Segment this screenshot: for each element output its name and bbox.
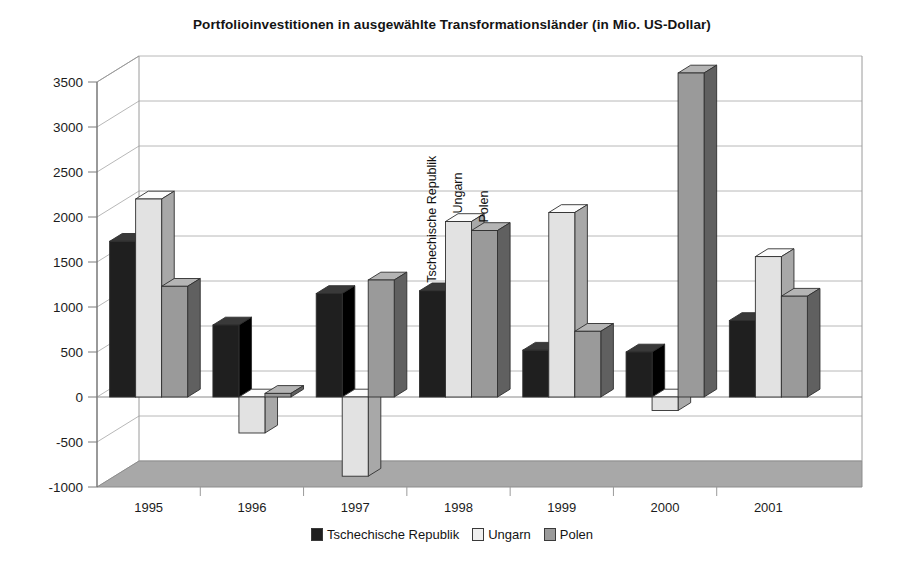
bar-tschechische-republik-1996 (213, 317, 252, 397)
y-tick-label: 1000 (53, 300, 83, 315)
bar-polen-1997 (368, 272, 407, 397)
y-tick-label: 3500 (53, 75, 83, 90)
y-tick-label: -1000 (48, 480, 83, 495)
x-tick-label: 2001 (754, 500, 783, 515)
bar-polen-1996 (265, 386, 304, 397)
chart-container: Portfolioinvestitionen in ausgewählte Tr… (0, 0, 904, 571)
legend-label: Tschechische Republik (327, 528, 459, 541)
chart-plot-area: 3500300025002000150010005000-500-1000 19… (0, 0, 904, 571)
x-axis-ticks: 1995199619971998199920002001 (134, 487, 783, 515)
bar-ungarn-1997 (342, 389, 381, 476)
x-tick-label: 1995 (134, 500, 163, 515)
y-tick-label: 2000 (53, 210, 83, 225)
x-tick-label: 1999 (547, 500, 576, 515)
chart-legend: Tschechische RepublikUngarnPolen (0, 528, 904, 541)
legend-swatch-icon (544, 528, 556, 541)
series-annotation-polen: Polen (477, 190, 491, 222)
y-axis-ticks: 3500300025002000150010005000-500-1000 (48, 75, 97, 495)
legend-item-tschechische-republik[interactable]: Tschechische Republik (311, 528, 459, 541)
legend-label: Polen (560, 528, 593, 541)
y-tick-label: 0 (75, 390, 83, 405)
x-tick-label: 1997 (341, 500, 370, 515)
bar-polen-1998 (472, 223, 511, 397)
x-tick-label: 2000 (651, 500, 680, 515)
y-tick-label: 2500 (53, 165, 83, 180)
legend-label: Ungarn (488, 528, 531, 541)
bars-group (110, 65, 820, 476)
legend-swatch-icon (472, 528, 484, 541)
y-tick-label: -500 (56, 435, 83, 450)
bar-polen-1999 (575, 324, 614, 398)
bar-polen-2000 (678, 65, 717, 397)
bar-polen-1995 (162, 279, 201, 398)
y-tick-label: 1500 (53, 255, 83, 270)
legend-swatch-icon (311, 528, 323, 541)
chart-floor-3d (97, 461, 862, 487)
series-annotation-tschechische-republik: Tschechische Republik (425, 155, 439, 283)
bar-tschechische-republik-1997 (316, 286, 355, 397)
y-tick-label: 3000 (53, 120, 83, 135)
legend-item-ungarn[interactable]: Ungarn (472, 528, 531, 541)
x-tick-label: 1996 (237, 500, 266, 515)
y-tick-label: 500 (60, 345, 83, 360)
x-tick-label: 1998 (444, 500, 473, 515)
bar-tschechische-republik-2000 (626, 344, 665, 397)
bar-polen-2001 (781, 288, 820, 397)
legend-item-polen[interactable]: Polen (544, 528, 593, 541)
series-annotation-ungarn: Ungarn (451, 172, 465, 213)
